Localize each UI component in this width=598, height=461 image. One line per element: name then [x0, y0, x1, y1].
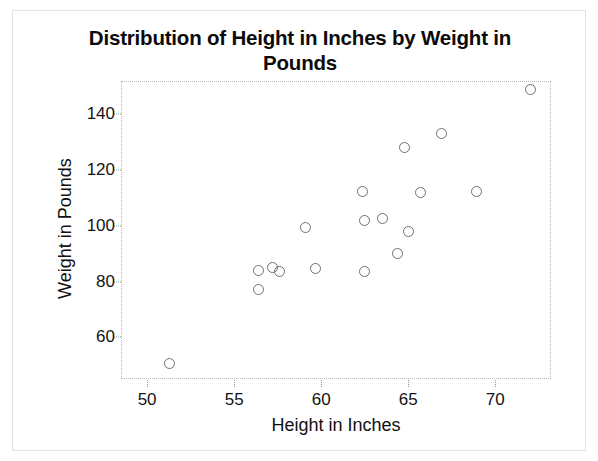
x-axis-tick-labels: 5055606570	[121, 380, 551, 414]
data-point	[300, 222, 311, 233]
data-point	[399, 142, 410, 153]
y-axis-tick-mark	[114, 337, 121, 338]
x-axis-tick-mark	[495, 380, 496, 387]
data-point	[359, 215, 370, 226]
data-point	[164, 358, 175, 369]
y-axis-title: Weight in Pounds	[55, 79, 76, 379]
x-axis-title: Height in Inches	[121, 415, 551, 436]
data-point	[377, 213, 388, 224]
data-point	[436, 128, 447, 139]
x-axis-tick-label: 60	[296, 390, 346, 410]
x-axis-tick-label: 50	[122, 390, 172, 410]
x-axis-tick-label: 70	[470, 390, 520, 410]
data-point	[310, 263, 321, 274]
x-axis-tick-label: 65	[383, 390, 433, 410]
x-axis-tick-mark	[408, 380, 409, 387]
y-axis-tick-mark	[114, 281, 121, 282]
data-point	[392, 248, 403, 259]
x-axis-tick-label: 55	[209, 390, 259, 410]
y-axis-tick-mark	[114, 114, 121, 115]
data-point	[253, 284, 264, 295]
y-axis-tick-mark	[114, 225, 121, 226]
data-point	[359, 266, 370, 277]
data-point	[471, 186, 482, 197]
data-point	[274, 266, 285, 277]
data-point	[415, 187, 426, 198]
scatter-plot-area	[121, 81, 551, 379]
data-point	[253, 265, 264, 276]
x-axis-tick-mark	[321, 380, 322, 387]
figure-container: Distribution of Height in Inches by Weig…	[12, 10, 586, 451]
data-point	[403, 226, 414, 237]
y-axis-tick-mark	[114, 170, 121, 171]
data-point	[357, 186, 368, 197]
x-axis-tick-mark	[147, 380, 148, 387]
x-axis-tick-mark	[234, 380, 235, 387]
page-title: Distribution of Height in Inches by Weig…	[53, 25, 547, 75]
data-point	[525, 84, 536, 95]
